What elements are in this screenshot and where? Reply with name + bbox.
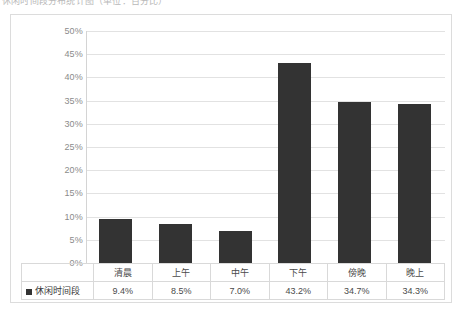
value-cell: 34.3% <box>386 282 445 300</box>
bar-下午[interactable] <box>278 63 311 263</box>
bar-slot <box>86 31 146 263</box>
value-cell: 7.0% <box>211 282 270 300</box>
category-cell: 下午 <box>269 264 328 282</box>
caption-text: 休闲时间段分布统计图（单位：百分比） <box>2 0 168 7</box>
y-axis-tick-label: 5% <box>70 235 83 245</box>
y-axis-tick-label: 20% <box>64 165 83 175</box>
data-table: 清晨上午中午下午傍晚晚上 休闲时间段 9.4%8.5%7.0%43.2%34.7… <box>21 263 445 300</box>
y-axis-tick-label: 15% <box>64 188 83 198</box>
bar-slot <box>384 31 444 263</box>
caption-strip: 休闲时间段分布统计图（单位：百分比） <box>0 0 462 8</box>
y-axis-tick-label: 50% <box>64 26 83 36</box>
bar-slot <box>205 31 265 263</box>
bar-清晨[interactable] <box>99 219 132 263</box>
category-cell: 中午 <box>211 264 270 282</box>
bar-slot <box>146 31 206 263</box>
category-cell: 晚上 <box>386 264 445 282</box>
chart-frame: 0%5%10%15%20%25%30%35%40%45%50% 清晨上午中午下午… <box>10 14 452 303</box>
table-row-values: 休闲时间段 9.4%8.5%7.0%43.2%34.7%34.3% <box>22 282 445 300</box>
table-row-categories: 清晨上午中午下午傍晚晚上 <box>22 264 445 282</box>
bar-晚上[interactable] <box>398 104 431 263</box>
bar-上午[interactable] <box>159 224 192 263</box>
table-corner-cell <box>22 264 94 282</box>
bar-slot <box>325 31 385 263</box>
legend-label: 休闲时间段 <box>35 286 80 296</box>
value-cell: 43.2% <box>269 282 328 300</box>
y-axis-tick-label: 10% <box>64 212 83 222</box>
plot-region: 0%5%10%15%20%25%30%35%40%45%50% <box>86 31 444 279</box>
legend-swatch-icon <box>26 289 32 295</box>
value-cell: 9.4% <box>94 282 153 300</box>
value-cell: 8.5% <box>152 282 211 300</box>
bar-傍晚[interactable] <box>338 102 371 263</box>
bar-中午[interactable] <box>219 231 252 263</box>
y-axis-tick-label: 45% <box>64 49 83 59</box>
category-cell: 清晨 <box>94 264 153 282</box>
category-cell: 傍晚 <box>328 264 387 282</box>
y-axis-tick-label: 40% <box>64 72 83 82</box>
value-cell: 34.7% <box>328 282 387 300</box>
category-cell: 上午 <box>152 264 211 282</box>
legend-cell: 休闲时间段 <box>22 282 94 300</box>
y-axis-tick-label: 35% <box>64 96 83 106</box>
bar-slot <box>265 31 325 263</box>
y-axis-tick-label: 25% <box>64 142 83 152</box>
y-axis-tick-label: 30% <box>64 119 83 129</box>
bar-group <box>86 31 444 263</box>
